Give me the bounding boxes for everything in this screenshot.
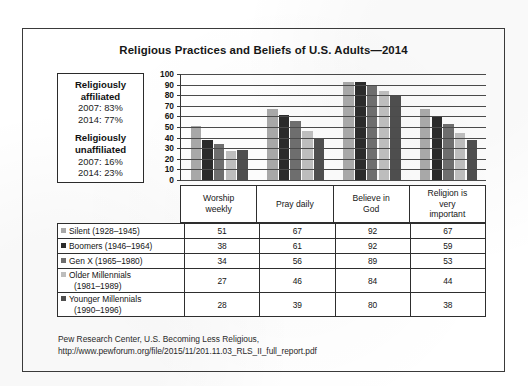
unaffiliated-heading-line1: Religiously: [75, 132, 126, 143]
bar[interactable]: [455, 133, 466, 180]
unaffiliated-2007-value: 2007: 16%: [78, 156, 123, 168]
table-row: Gen X (1965–1980)34568953: [58, 254, 486, 269]
table-row: Boomers (1946–1964)38619259: [58, 239, 486, 254]
y-axis: 1009080706050403020100: [150, 72, 174, 185]
data-value-cell: 84: [335, 269, 410, 293]
axis-tickmark-0: [177, 180, 181, 181]
axis-tickmark-40: [177, 138, 181, 139]
y-axis-tick-40: 40: [165, 133, 174, 141]
data-value-cell: 38: [185, 239, 260, 254]
legend-swatch-icon: [61, 296, 66, 301]
category-header-row: WorshipweeklyPray dailyBelieve inGodReli…: [180, 185, 486, 223]
gridline-70: [181, 106, 486, 107]
gridline-40: [181, 138, 486, 139]
axis-tickmark-80: [177, 95, 181, 96]
category-label-1: Worshipweekly: [181, 186, 257, 222]
gridline-60: [181, 116, 486, 117]
bar[interactable]: [355, 82, 366, 180]
gridline-50: [181, 127, 486, 128]
y-axis-tick-80: 80: [165, 91, 174, 99]
bar[interactable]: [202, 140, 213, 180]
unaffiliated-heading-line2: unaffiliated: [75, 144, 126, 155]
data-value-cell: 28: [185, 293, 260, 317]
bar[interactable]: [191, 126, 202, 180]
category-label-3: Believe inGod: [334, 186, 410, 222]
gridline-10: [181, 169, 486, 170]
y-axis-tick-90: 90: [165, 80, 174, 88]
data-value-cell: 38: [410, 293, 485, 317]
data-value-cell: 27: [185, 269, 260, 293]
bar[interactable]: [226, 151, 237, 180]
bar[interactable]: [214, 144, 225, 180]
axis-tickmark-10: [177, 169, 181, 170]
gridline-20: [181, 159, 486, 160]
y-axis-tick-30: 30: [165, 144, 174, 152]
series-name: Silent (1928–1945): [69, 226, 140, 236]
legend-swatch-icon: [61, 258, 66, 263]
gridline-80: [181, 95, 486, 96]
data-value-cell: 59: [410, 239, 485, 254]
y-axis-tick-20: 20: [165, 155, 174, 163]
series-name: Boomers (1946–1964): [69, 241, 152, 251]
series-legend-label: Older Millennials(1981–1989): [58, 269, 185, 293]
y-axis-tick-0: 0: [169, 176, 174, 184]
affiliated-2014-value: 2014: 77%: [78, 114, 123, 126]
source-url: http://www.pewforum.org/file/2015/11/201…: [58, 345, 468, 357]
series-legend-label: Gen X (1965–1980): [58, 254, 185, 269]
series-name: Older Millennials: [69, 270, 131, 280]
data-value-cell: 51: [185, 224, 260, 239]
series-name: Younger Millennials: [69, 294, 141, 304]
legend-swatch-icon: [61, 272, 66, 277]
category-label-2: Pray daily: [257, 186, 333, 222]
series-legend-label: Boomers (1946–1964): [58, 239, 185, 254]
y-axis-tick-50: 50: [165, 123, 174, 131]
bar[interactable]: [343, 82, 354, 180]
axis-tickmark-60: [177, 116, 181, 117]
bar[interactable]: [467, 140, 478, 180]
religious-affiliation-summary-box: Religiously affiliated 2007: 83% 2014: 7…: [57, 73, 144, 183]
y-axis-tick-10: 10: [165, 165, 174, 173]
category-label-text: Pray daily: [276, 199, 314, 210]
y-axis-tick-60: 60: [165, 112, 174, 120]
bar[interactable]: [379, 91, 390, 180]
chart-title: Religious Practices and Beliefs of U.S. …: [22, 44, 505, 56]
category-label-text: Worshipweekly: [203, 193, 234, 214]
bar[interactable]: [443, 124, 454, 180]
data-value-cell: 80: [335, 293, 410, 317]
data-value-cell: 39: [260, 293, 335, 317]
series-name-years: (1990–1996): [61, 305, 184, 315]
y-axis-tick-100: 100: [160, 70, 174, 78]
table-row: Older Millennials(1981–1989)27468444: [58, 269, 486, 293]
legend-swatch-icon: [61, 228, 66, 233]
source-citation: Pew Research Center, U.S. Becoming Less …: [58, 333, 468, 357]
data-value-cell: 92: [335, 239, 410, 254]
category-label-text: Believe inGod: [352, 193, 389, 214]
series-legend-label: Silent (1928–1945): [58, 224, 185, 239]
unaffiliated-heading: Religiously unaffiliated: [75, 132, 126, 155]
data-value-cell: 44: [410, 269, 485, 293]
affiliated-heading-line2: affiliated: [81, 91, 120, 102]
data-value-cell: 92: [335, 224, 410, 239]
series-name-years: (1981–1989): [61, 281, 184, 291]
axis-tickmark-70: [177, 106, 181, 107]
source-line-1: Pew Research Center, U.S. Becoming Less …: [58, 333, 468, 345]
bar[interactable]: [237, 150, 248, 180]
gridline-0: [181, 180, 486, 181]
gridline-30: [181, 148, 486, 149]
gridline-90: [181, 85, 486, 86]
data-value-cell: 56: [260, 254, 335, 269]
y-axis-tick-70: 70: [165, 102, 174, 110]
axis-tickmark-50: [177, 127, 181, 128]
category-label-text: Religion isveryimportant: [428, 188, 468, 220]
table-row: Younger Millennials(1990–1996)28398038: [58, 293, 486, 317]
affiliated-heading-line1: Religiously: [75, 79, 126, 90]
data-table: Silent (1928–1945)51679267Boomers (1946–…: [57, 223, 486, 317]
axis-tickmark-100: [177, 74, 181, 75]
bar[interactable]: [367, 86, 378, 180]
axis-tickmark-90: [177, 85, 181, 86]
bar-chart: 1009080706050403020100: [150, 72, 490, 185]
bar[interactable]: [290, 121, 301, 180]
data-value-cell: 67: [410, 224, 485, 239]
affiliated-heading: Religiously affiliated: [75, 79, 126, 102]
affiliated-2007-value: 2007: 83%: [78, 102, 123, 114]
